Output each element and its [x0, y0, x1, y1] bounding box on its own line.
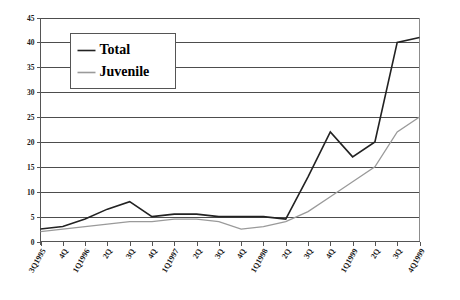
- y-tick-label: 30: [27, 88, 35, 97]
- x-axis-group: 3Q19954Q1Q19962Q3Q4Q1Q19972Q3Q4Q1Q19982Q…: [27, 242, 427, 275]
- y-tick-label: 45: [27, 14, 35, 23]
- x-tick-label: 1Q1997: [160, 247, 181, 274]
- x-tick-label: 4Q: [235, 247, 248, 260]
- y-tick-label: 25: [27, 113, 35, 122]
- y-tick-label: 0: [31, 238, 35, 247]
- y-tick-label: 5: [31, 213, 35, 222]
- x-tick-label: 1Q1998: [249, 247, 270, 274]
- x-tick-label: 4Q: [146, 247, 159, 260]
- x-tick-label: 3Q: [391, 247, 404, 260]
- x-tick-label: 4Q: [57, 247, 70, 260]
- x-tick-label: 1Q1999: [339, 247, 360, 274]
- y-axis-group: 051015202530354045: [27, 14, 41, 247]
- y-tick-label: 40: [27, 38, 35, 47]
- legend-label-total: Total: [100, 42, 131, 57]
- x-tick-label: 4Q: [324, 247, 337, 260]
- x-tick-label: 2Q: [101, 247, 114, 260]
- x-tick-label: 1Q1996: [71, 247, 92, 274]
- x-tick-label: 4Q1999: [406, 247, 427, 274]
- x-tick-label: 3Q: [302, 247, 315, 260]
- y-tick-label: 15: [27, 163, 35, 172]
- x-tick-label: 3Q1995: [27, 247, 48, 274]
- legend-label-juvenile: Juvenile: [100, 64, 150, 79]
- x-tick-label: 2Q: [280, 247, 293, 260]
- y-tick-label: 10: [27, 188, 35, 197]
- x-tick-label: 3Q: [213, 247, 226, 260]
- x-tick-label: 3Q: [124, 247, 137, 260]
- x-tick-label: 2Q: [369, 247, 382, 260]
- chart-legend: TotalJuvenile: [71, 34, 176, 89]
- chart-container: 051015202530354045 3Q19954Q1Q19962Q3Q4Q1…: [0, 0, 460, 300]
- line-chart: 051015202530354045 3Q19954Q1Q19962Q3Q4Q1…: [0, 0, 460, 300]
- y-tick-label: 35: [27, 63, 35, 72]
- x-tick-label: 2Q: [191, 247, 204, 260]
- y-tick-label: 20: [27, 138, 35, 147]
